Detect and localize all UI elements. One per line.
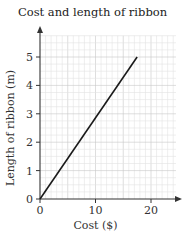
y-tick-label: 3 — [26, 108, 33, 121]
x-tick-label: 10 — [89, 204, 103, 217]
x-tick-label: 20 — [144, 204, 158, 217]
y-tick-label: 1 — [26, 165, 33, 178]
y-axis-label: Length of ribbon (m) — [4, 70, 17, 186]
x-axis-label: Cost ($) — [73, 219, 117, 232]
y-tick-label: 2 — [26, 136, 33, 149]
x-tick-label: 0 — [37, 204, 44, 217]
y-tick-label: 0 — [26, 193, 33, 206]
line-chart: 01234501020Cost ($)Length of ribbon (m) — [0, 0, 185, 236]
grid — [40, 36, 176, 199]
y-tick-label: 4 — [26, 79, 33, 92]
axes — [36, 26, 182, 203]
y-tick-label: 5 — [26, 51, 33, 64]
